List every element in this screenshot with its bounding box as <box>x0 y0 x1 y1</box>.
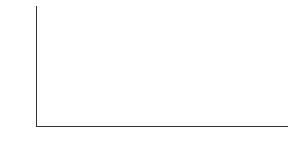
y-axis <box>36 6 37 127</box>
x-axis <box>36 126 288 127</box>
y-axis-label <box>2 4 14 124</box>
